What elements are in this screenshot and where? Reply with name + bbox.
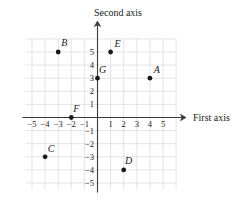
grid-layer: [25, 39, 176, 190]
y-tick-label: −2: [85, 139, 94, 149]
point-marker: [56, 50, 61, 55]
y-tick-label: 5: [90, 47, 94, 57]
second-axis-title: Second axis: [94, 7, 142, 18]
point-label: C: [48, 143, 55, 154]
y-tick-label: 1: [90, 99, 94, 109]
point-marker: [148, 76, 153, 81]
point-label: F: [72, 103, 80, 114]
point-label: G: [99, 64, 106, 75]
y-tick-label: −1: [85, 126, 94, 136]
point-label: E: [114, 38, 121, 49]
y-tick-label: 2: [90, 86, 94, 96]
x-tick-label: 1: [108, 119, 112, 129]
first-axis-title: First axis: [193, 112, 230, 123]
coordinate-plane-figure: −5−4−3−2−11234554321−1−2−3−4−5 ABCDEFG S…: [0, 0, 244, 210]
x-tick-label: −4: [41, 119, 51, 129]
point-label: D: [124, 155, 133, 166]
x-tick-label: −5: [27, 119, 36, 129]
x-tick-label: 4: [148, 119, 153, 129]
point-marker: [43, 154, 48, 159]
x-tick-label: 3: [135, 119, 139, 129]
y-tick-label: −5: [85, 178, 94, 188]
x-tick-label: −3: [54, 119, 63, 129]
point-label: A: [153, 64, 161, 75]
point-marker: [95, 76, 100, 81]
axes-layer: [22, 21, 186, 193]
x-tick-label: −2: [67, 119, 76, 129]
y-tick-label: 3: [90, 73, 94, 83]
scatter-plot-svg: −5−4−3−2−11234554321−1−2−3−4−5 ABCDEFG S…: [0, 0, 244, 210]
y-tick-label: −4: [85, 165, 95, 175]
point-marker: [121, 168, 126, 173]
point-marker: [69, 115, 74, 120]
x-tick-label: 5: [161, 119, 165, 129]
y-tick-label: −3: [85, 152, 94, 162]
point-label: B: [61, 37, 67, 48]
x-tick-label: 2: [122, 119, 126, 129]
point-marker: [108, 50, 113, 55]
